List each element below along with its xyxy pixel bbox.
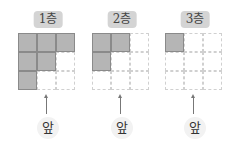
empty-cell xyxy=(92,71,111,90)
empty-cell xyxy=(56,71,75,90)
empty-cell xyxy=(130,52,149,71)
floor-grid xyxy=(18,33,75,90)
empty-cell xyxy=(203,52,222,71)
filled-cell xyxy=(37,33,56,52)
empty-cell xyxy=(184,52,203,71)
filled-cell xyxy=(92,33,111,52)
filled-cell xyxy=(18,71,37,90)
empty-cell xyxy=(203,71,222,90)
floor-panel-3: 3층 앞 xyxy=(165,0,225,146)
empty-cell xyxy=(130,71,149,90)
arrow-up-icon xyxy=(193,97,194,114)
floor-panel-1: 1층 앞 xyxy=(18,0,78,146)
filled-cell xyxy=(92,52,111,71)
empty-cell xyxy=(184,33,203,52)
empty-cell xyxy=(37,71,56,90)
filled-cell xyxy=(56,33,75,52)
floor-label: 3층 xyxy=(181,11,210,28)
empty-cell xyxy=(111,52,130,71)
floor-grid xyxy=(165,33,222,90)
floor-label: 1층 xyxy=(34,11,63,28)
arrow-up-icon xyxy=(120,97,121,114)
empty-cell xyxy=(56,52,75,71)
empty-cell xyxy=(203,33,222,52)
filled-cell xyxy=(37,52,56,71)
floor-panel-2: 2층 앞 xyxy=(92,0,152,146)
floor-label: 2층 xyxy=(108,11,137,28)
empty-cell xyxy=(165,52,184,71)
empty-cell xyxy=(130,33,149,52)
front-label: 앞 xyxy=(111,117,133,139)
front-label: 앞 xyxy=(184,117,206,139)
filled-cell xyxy=(165,33,184,52)
arrow-up-icon xyxy=(46,97,47,114)
empty-cell xyxy=(184,71,203,90)
filled-cell xyxy=(18,52,37,71)
filled-cell xyxy=(18,33,37,52)
filled-cell xyxy=(111,33,130,52)
empty-cell xyxy=(111,71,130,90)
front-label: 앞 xyxy=(37,117,59,139)
floor-grid xyxy=(92,33,149,90)
empty-cell xyxy=(165,71,184,90)
